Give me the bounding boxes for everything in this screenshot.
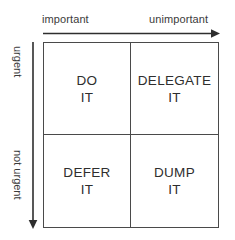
quadrant-label-line1: DUMP [154,164,195,181]
quadrant-defer-it[interactable]: DEFER IT [44,135,131,227]
arrow-down-icon [27,42,39,229]
matrix-grid: DO IT DELEGATE IT DEFER IT DUMP IT [43,42,219,228]
quadrant-do-it[interactable]: DO IT [44,43,131,135]
arrow-right-icon [43,28,220,39]
axis-label-not-urgent: not urgent [11,150,24,200]
quadrant-label-line1: DEFER [63,164,110,181]
quadrant-label-line2: IT [81,89,94,106]
quadrant-label-line1: DO [77,72,98,89]
axis-label-unimportant: unimportant [149,13,208,26]
eisenhower-matrix-diagram: important unimportant urgent not urgent … [0,0,235,240]
quadrant-dump-it[interactable]: DUMP IT [131,135,218,227]
quadrant-label-line2: IT [168,181,181,198]
quadrant-label-line2: IT [168,89,181,106]
axis-label-urgent: urgent [11,46,24,77]
axis-label-important: important [42,13,89,26]
quadrant-label-line2: IT [81,181,94,198]
quadrant-label-line1: DELEGATE [138,72,211,89]
quadrant-delegate-it[interactable]: DELEGATE IT [131,43,218,135]
